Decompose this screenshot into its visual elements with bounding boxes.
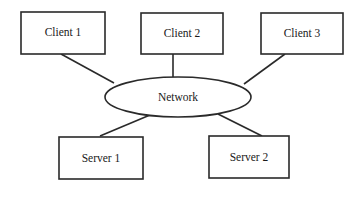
network-node: Network <box>105 77 251 117</box>
client-label: Client 1 <box>45 26 82 38</box>
client-node-1: Client 1 <box>21 12 105 54</box>
server-label: Server 1 <box>82 152 121 164</box>
link-client1-network <box>61 54 114 83</box>
client-node-2: Client 2 <box>141 13 223 54</box>
link-server2-network <box>218 114 262 136</box>
server-node-2: Server 2 <box>209 136 289 178</box>
network-diagram: Network Client 1 Client 2 Client 3 Serve… <box>0 0 360 197</box>
server-label: Server 2 <box>230 151 269 163</box>
link-client3-network <box>244 54 285 84</box>
client-label: Client 3 <box>284 27 321 39</box>
link-server1-network <box>100 115 150 136</box>
network-label: Network <box>158 91 198 103</box>
client-label: Client 2 <box>164 27 201 39</box>
server-node-1: Server 1 <box>59 137 143 179</box>
client-node-3: Client 3 <box>261 13 343 54</box>
